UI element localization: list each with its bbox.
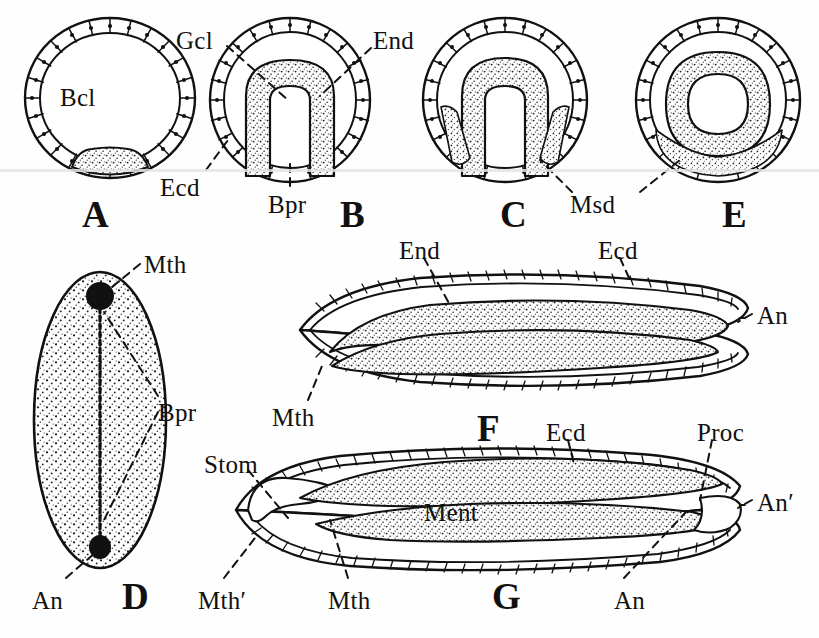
label-an-g: An (614, 588, 645, 613)
figure-letter-b: B (340, 196, 365, 233)
label-end-b: End (373, 28, 414, 53)
label-bcl: Bcl (60, 85, 96, 110)
label-msd: Msd (570, 192, 615, 217)
label-proc-g: Proc (697, 420, 744, 445)
figure-g-larva-section (236, 446, 741, 574)
figure-e-gastrula-closed (636, 18, 800, 182)
label-mth-prime: Mth′ (198, 588, 246, 613)
label-stom-g: Stom (204, 452, 258, 477)
label-mth-g: Mth (328, 588, 371, 613)
figure-letter-d: D (122, 578, 149, 615)
label-ment-g: Ment (424, 500, 478, 525)
label-mth-f: Mth (272, 405, 315, 430)
an-f-dash: - (738, 303, 747, 328)
label-ecd-b: Ecd (160, 175, 200, 200)
label-gcl: Gcl (176, 28, 213, 53)
figure-letter-a: A (82, 196, 109, 233)
figure-letter-f: F (477, 410, 500, 447)
an-prime-dash: - (738, 490, 747, 515)
label-an-d: An (32, 588, 63, 613)
figure-a-blastula (25, 18, 195, 178)
figure-d-larva-surface (34, 272, 166, 568)
label-ecd-g: Ecd (546, 420, 586, 445)
label-ecd-f: Ecd (598, 238, 638, 263)
figure-letter-c: C (500, 196, 527, 233)
embryo-diagram-svg (0, 0, 819, 638)
illustration-plate: Bcl Gcl End Ecd Bpr Msd Mth Bpr An End E… (0, 0, 819, 638)
figure-letter-g: G (492, 578, 521, 615)
figure-c-gastrula-mesoderm (423, 18, 587, 182)
label-end-f: End (399, 238, 440, 263)
figure-b-gastrula (210, 18, 370, 182)
figure-f-larva-section (300, 270, 748, 390)
label-an-prime: An′ (757, 490, 794, 515)
label-bpr-d: Bpr (158, 400, 196, 425)
label-mth-d: Mth (144, 252, 187, 277)
label-an-f: An (757, 303, 788, 328)
figure-letter-e: E (722, 196, 747, 233)
label-bpr-b: Bpr (268, 192, 306, 217)
